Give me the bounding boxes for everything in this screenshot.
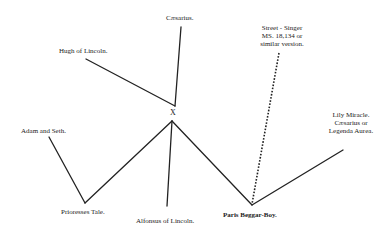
node-x: X: [170, 109, 176, 117]
node-prioresses-tale: Prioresses Tale.: [61, 208, 105, 216]
street-line-3: similar version.: [252, 40, 312, 48]
edge-hugh-x: [86, 59, 175, 106]
node-street-singer: Street - Singer MS. 18,134 or similar ve…: [252, 24, 312, 48]
street-line-2: MS. 18,134 or: [252, 32, 312, 40]
lily-line-3: Legenda Aurea.: [320, 127, 382, 135]
edge-alfonsus-x: [167, 121, 172, 206]
lily-line-2: Cæsarius or: [320, 119, 382, 127]
edge-street-paris-dotted: [252, 53, 279, 204]
node-adam-and-seth: Adam and Seth.: [21, 127, 66, 135]
node-alfonsus-of-lincoln: Alfonsus of Lincoln.: [136, 217, 194, 225]
edge-adam-prioresses: [49, 137, 85, 203]
lily-line-1: Lily Miracle.: [320, 111, 382, 119]
node-paris-beggar-boy: Paris Beggar-Boy.: [223, 211, 277, 219]
node-caesarius: Cæsarius.: [166, 14, 193, 22]
edge-paris-lily: [252, 150, 343, 205]
edge-caesarius-x: [175, 27, 181, 106]
node-hugh-of-lincoln: Hugh of Lincoln.: [59, 47, 107, 55]
node-lily-miracle: Lily Miracle. Cæsarius or Legenda Aurea.: [320, 111, 382, 135]
street-line-1: Street - Singer: [252, 24, 312, 32]
edge-prioresses-x: [85, 121, 172, 203]
edge-x-paris: [172, 121, 252, 205]
